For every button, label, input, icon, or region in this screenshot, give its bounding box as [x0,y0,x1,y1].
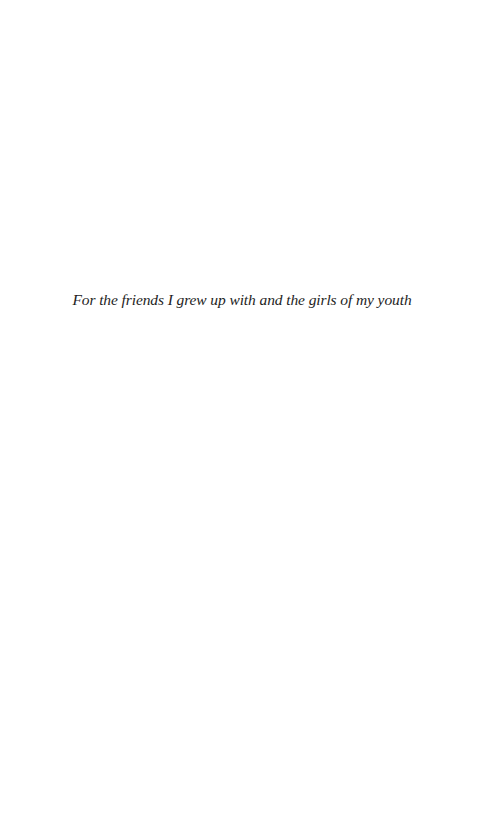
book-page: For the friends I grew up with and the g… [0,0,490,818]
dedication-text: For the friends I grew up with and the g… [0,291,484,309]
